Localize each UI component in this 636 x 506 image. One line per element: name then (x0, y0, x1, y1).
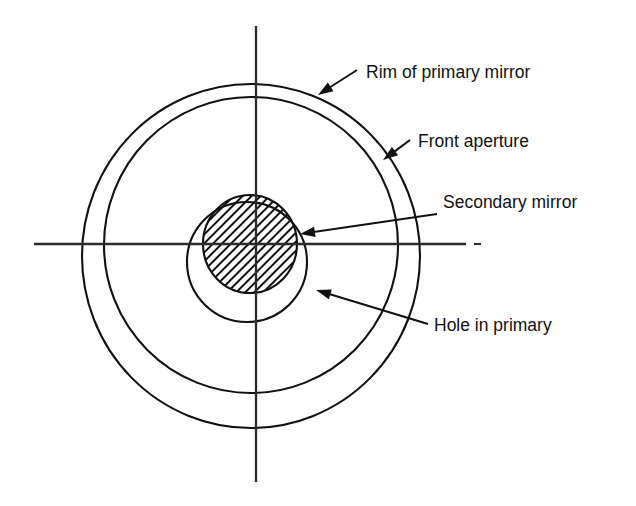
hatch-line (123, 79, 378, 334)
diagram-canvas: Rim of primary mirrorFront apertureSecon… (0, 0, 636, 506)
callout-rim-of-primary-mirror: Rim of primary mirror (318, 62, 530, 95)
callout-hole-in-primary: Hole in primary (316, 289, 552, 335)
hatch-line (123, 133, 378, 388)
label-hole-in-primary: Hole in primary (434, 315, 552, 335)
label-secondary-mirror: Secondary mirror (443, 192, 577, 212)
arrow-head-icon (300, 227, 316, 237)
callout-front-aperture: Front aperture (383, 131, 529, 160)
secondary-mirror-hatching (123, 0, 378, 496)
leader-line (393, 140, 410, 153)
hatch-line (123, 151, 378, 406)
rim-of-primary-mirror-circle (82, 84, 420, 428)
hatch-line (123, 97, 378, 352)
hatch-line (123, 115, 378, 370)
callout-group: Rim of primary mirrorFront apertureSecon… (300, 62, 577, 335)
leader-line (328, 70, 357, 89)
callout-secondary-mirror: Secondary mirror (300, 192, 577, 237)
hatch-line (123, 142, 378, 397)
hatch-line (123, 124, 378, 379)
label-front-aperture: Front aperture (418, 131, 529, 151)
arrow-head-icon (316, 289, 332, 299)
label-rim-of-primary-mirror: Rim of primary mirror (366, 62, 530, 82)
arrow-head-icon (318, 83, 333, 95)
telescope-front-view-diagram: Rim of primary mirrorFront apertureSecon… (0, 0, 636, 506)
